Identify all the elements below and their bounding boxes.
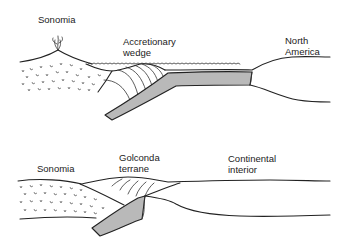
sonomia-arc-surface [20,50,92,64]
sea-surface-waves [88,63,240,64]
label-north-america-line2: America [285,46,320,57]
sonomia-base [20,217,96,219]
geologic-cross-section-diagram: Sonomia Accretionary wedge North America… [0,0,344,240]
sonomia-golconda-boundary [80,184,124,205]
top-panel [20,36,330,120]
golconda-base [145,183,180,196]
label-sonomia-bottom: Sonomia [37,163,75,174]
continental-interior-base [145,196,330,216]
subducting-slab-top [105,72,252,120]
label-golconda-terrane-line2: terrane [119,163,149,174]
label-golconda-terrane-line1: Golconda [119,152,160,163]
label-continental-interior-line1: Continental [228,153,276,164]
label-accretionary-wedge-line1: Accretionary [123,36,176,47]
volcano-plume-icon [53,36,63,50]
label-sonomia-top: Sonomia [38,14,76,25]
label-continental-interior-line2: interior [228,164,257,175]
label-accretionary-wedge-line2: wedge [123,47,151,58]
north-america-base [250,85,330,102]
volcanic-rock-pattern-top [22,63,101,91]
label-north-america-line1: North [285,35,308,46]
bottom-upper-surface [18,177,330,184]
sea-floor [86,64,165,71]
golconda-terrane-thrusts [112,179,154,196]
bottom-panel [18,177,330,236]
arc-basement-boundary [98,71,112,92]
